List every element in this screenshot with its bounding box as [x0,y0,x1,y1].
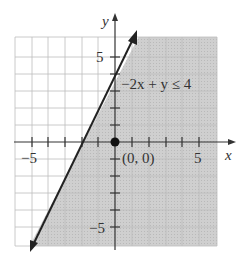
test-point [111,138,120,147]
x-axis-label: x [224,147,232,163]
y-axis-label: y [100,13,109,29]
y-tick-label-neg5: −5 [89,220,105,236]
graph-svg: y x 5 −5 −5 5 −2x + y ≤ 4 (0, 0) [0,0,242,253]
inequality-graph: y x 5 −5 −5 5 −2x + y ≤ 4 (0, 0) [0,0,242,253]
inequality-label: −2x + y ≤ 4 [121,76,192,92]
x-tick-label-5: 5 [194,150,202,166]
x-tick-label-neg5: −5 [21,150,37,166]
line-arrow-up-icon [128,30,137,45]
test-point-label: (0, 0) [122,150,155,167]
x-axis-arrow-icon [228,139,236,145]
y-tick-label-5: 5 [96,49,104,65]
y-axis-arrow-icon [112,13,118,21]
